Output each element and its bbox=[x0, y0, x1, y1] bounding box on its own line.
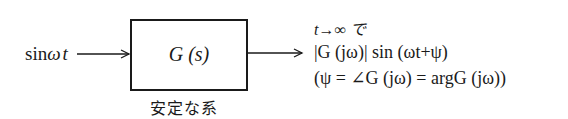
stable-system-caption: 安定な系 bbox=[150, 95, 218, 119]
connector-arrows bbox=[0, 0, 568, 119]
transfer-function-block: G (s) bbox=[130, 19, 248, 91]
phase-definition: (ψ = ∠G (jω) = argG (jω)) bbox=[314, 67, 506, 89]
steady-state-condition: t→∞ で bbox=[314, 16, 366, 40]
transfer-function-label: G (s) bbox=[132, 43, 246, 66]
input-signal-label: sinωt bbox=[25, 43, 68, 65]
output-response: |G (jω)| sin (ωt+ψ) bbox=[314, 42, 448, 63]
